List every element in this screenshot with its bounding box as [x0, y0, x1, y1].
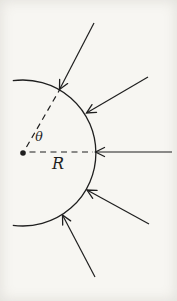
center-dot-point: [20, 150, 26, 156]
radius-label: R: [51, 154, 64, 173]
incoming-arrow: [63, 215, 96, 277]
angled-dashed-line: [27, 90, 60, 147]
figure-labels: θ R: [35, 129, 64, 173]
theta-label: θ: [35, 129, 43, 144]
incoming-arrows: [60, 23, 173, 277]
center-dot: [20, 150, 26, 156]
incoming-arrow: [87, 77, 149, 113]
scattering-diagram-figure: θ R: [0, 0, 177, 301]
incoming-arrow: [87, 190, 149, 224]
figure-svg: θ R: [0, 0, 177, 301]
incoming-arrow: [60, 23, 95, 90]
